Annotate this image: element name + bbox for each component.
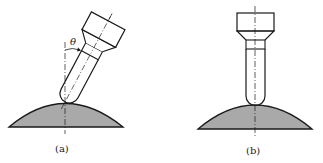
tilted-probe [44,3,129,118]
probe-taper-b [237,31,274,40]
caption-a: (a) [55,143,69,154]
figure-a: θ (a) [9,3,130,154]
probe-stylus-b [246,49,265,106]
figure-b: (b) [198,6,312,156]
angle-arrowhead [77,48,81,52]
diagram-canvas: θ (a) (b) [0,0,323,163]
probe-collar-b [246,40,265,49]
angle-theta-label: θ [70,36,76,47]
vertical-probe [237,13,274,106]
caption-b: (b) [246,145,260,156]
probe-head-b [237,13,274,31]
curved-surface-a [9,104,123,128]
